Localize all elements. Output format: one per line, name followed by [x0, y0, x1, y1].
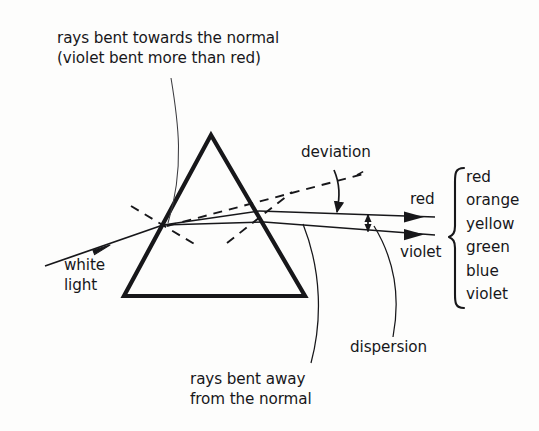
deviation-label-leader — [357, 169, 368, 175]
spectrum-curly-brace-icon — [449, 168, 464, 308]
bottom-note-line1: rays bent away — [190, 371, 305, 389]
deviation-label: deviation — [301, 144, 371, 162]
bottom-note-line2: from the normal — [190, 391, 312, 409]
spectrum-item-yellow: yellow — [466, 213, 519, 236]
spectrum-color-list: red orange yellow green blue violet — [466, 166, 519, 306]
top-note-line1: rays bent towards the normal — [57, 30, 279, 48]
white-light-label-line1: white — [64, 257, 105, 275]
spectrum-item-red: red — [466, 166, 519, 189]
white-light-label-line2: light — [64, 277, 97, 295]
spectrum-item-orange: orange — [466, 189, 519, 212]
spectrum-item-green: green — [466, 236, 519, 259]
top-note-line2: (violet bent more than red) — [57, 50, 261, 68]
deviation-angle-arrow — [334, 170, 339, 212]
dispersion-leader-curve — [374, 226, 396, 337]
red-ray-arrowhead — [404, 212, 424, 223]
spectrum-item-blue: blue — [466, 260, 519, 283]
prism-triangle — [124, 135, 305, 296]
dispersion-label: dispersion — [350, 339, 427, 357]
violet-ray-label: violet — [400, 244, 441, 262]
spectrum-item-violet: violet — [466, 283, 519, 306]
prism-dispersion-figure: rays bent towards the normal (violet ben… — [0, 0, 539, 431]
violet-ray-arrowhead — [404, 229, 424, 240]
red-ray-label: red — [410, 191, 435, 209]
